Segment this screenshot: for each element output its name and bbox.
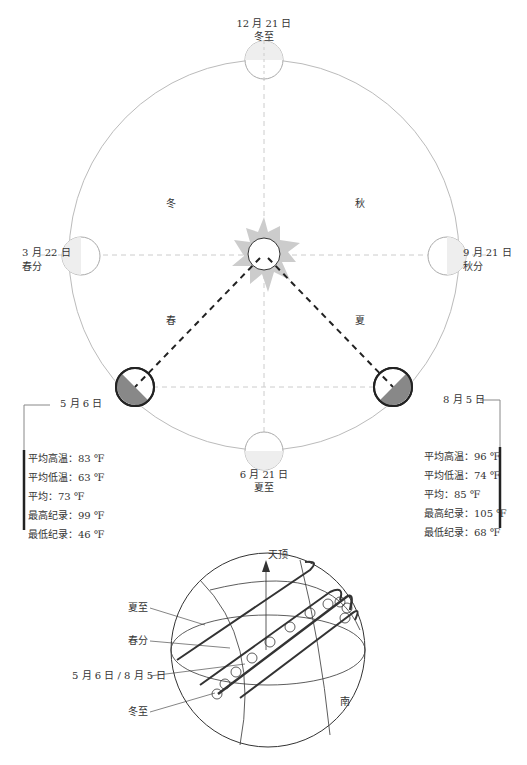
autumn-equinox-name: 秋分	[463, 260, 483, 274]
earth-summer-solstice	[245, 432, 283, 470]
earth-autumn-equinox	[428, 237, 466, 275]
winter-solstice-date: 12 月 21 日	[224, 17, 304, 31]
right-panel-stats: 平均高温：96 ℉ 平均低温：74 ℉ 平均：85 ℉ 最高纪录：105 ℉ 最…	[424, 447, 507, 542]
summer-solstice-name: 夏至	[224, 481, 304, 495]
earth-winter-solstice	[245, 41, 283, 79]
orbit-diagram	[0, 0, 527, 765]
zenith-label: 天顶	[268, 548, 288, 562]
legend-spring-equinox: 春分	[128, 634, 148, 648]
season-winter: 冬	[166, 197, 176, 211]
stat-record-high: 最高纪录：99 ℉	[28, 506, 104, 525]
winter-solstice-name: 冬至	[224, 30, 304, 44]
stat-avg-low: 平均低温：63 ℉	[28, 468, 104, 487]
summer-solstice-date: 6 月 21 日	[224, 468, 304, 482]
season-spring: 春	[166, 314, 176, 328]
stat-avg-high: 平均高温：83 ℉	[28, 449, 104, 468]
left-panel-date: 5 月 6 日	[60, 397, 102, 411]
left-panel-stats: 平均高温：83 ℉ 平均低温：63 ℉ 平均：73 ℉ 最高纪录：99 ℉ 最低…	[28, 449, 104, 544]
stat-record-low: 最低纪录：46 ℉	[28, 525, 104, 544]
season-summer: 夏	[355, 314, 365, 328]
stat-avg: 平均：85 ℉	[424, 485, 507, 504]
celestial-sphere	[150, 553, 365, 747]
right-panel-date: 8 月 5 日	[443, 393, 485, 407]
ray-may	[135, 258, 260, 387]
ray-aug	[268, 258, 393, 387]
legend-may-aug: 5 月 6 日 / 8 月 5 日	[72, 669, 166, 683]
stat-avg-low: 平均低温：74 ℉	[424, 466, 507, 485]
autumn-equinox-date: 9 月 21 日	[463, 246, 512, 260]
sun-core	[248, 238, 280, 270]
legend-winter-solstice: 冬至	[128, 705, 148, 719]
season-autumn: 秋	[355, 197, 365, 211]
stat-record-low: 最低纪录：68 ℉	[424, 523, 507, 542]
spring-equinox-name: 春分	[22, 260, 42, 274]
stat-avg-high: 平均高温：96 ℉	[424, 447, 507, 466]
stat-avg: 平均：73 ℉	[28, 487, 104, 506]
spring-equinox-date: 3 月 22 日	[22, 246, 71, 260]
legend-summer-solstice: 夏至	[128, 601, 148, 615]
stat-record-high: 最高纪录：105 ℉	[424, 504, 507, 523]
south-label: 南	[340, 695, 350, 709]
